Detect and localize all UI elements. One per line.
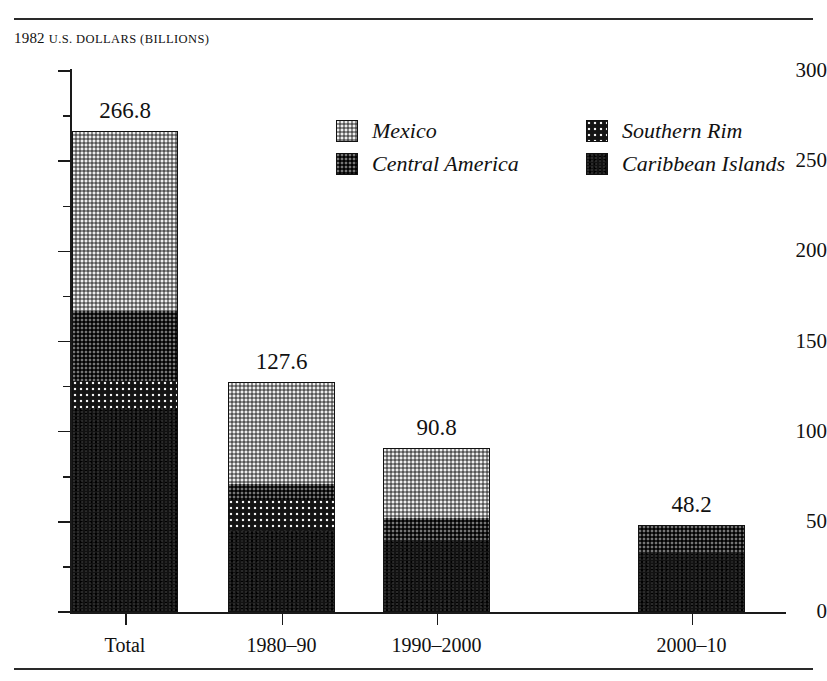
y-tick-major xyxy=(58,160,71,162)
x-tick xyxy=(125,613,127,625)
bar-segment-central-america xyxy=(638,525,745,552)
bar-segment-central-america xyxy=(72,311,178,381)
y-tick-label: 300 xyxy=(775,60,827,81)
bar-segment-caribbean-islands xyxy=(72,408,178,612)
x-tick-label: 1990–2000 xyxy=(347,635,527,655)
y-tick-label: 100 xyxy=(775,421,827,442)
bar-segment-southern-rim xyxy=(72,381,178,408)
y-tick-major xyxy=(58,431,71,433)
y-tick-minor xyxy=(63,386,71,388)
y-tick-minor xyxy=(63,115,71,117)
x-tick xyxy=(692,613,694,625)
legend-item-mexico: Mexico xyxy=(336,120,437,142)
legend-label: Central America xyxy=(372,153,519,175)
y-tick-minor xyxy=(63,206,71,208)
y-tick-label: 50 xyxy=(775,511,827,532)
bar-segment-central-america xyxy=(228,484,335,500)
bar-value-label: 127.6 xyxy=(228,350,335,373)
x-tick-label: Total xyxy=(35,635,215,655)
bar-segment-caribbean-islands xyxy=(383,540,490,612)
y-tick-label: 200 xyxy=(775,240,827,261)
legend-swatch-icon xyxy=(336,153,358,175)
bar-total xyxy=(72,131,178,612)
bar-segment-mexico xyxy=(383,448,490,518)
legend-swatch-icon xyxy=(586,120,608,142)
x-tick-label: 2000–10 xyxy=(602,635,782,655)
bar-value-label: 266.8 xyxy=(72,99,178,122)
y-tick-label: 0 xyxy=(775,601,827,622)
bar-segment-caribbean-islands xyxy=(638,552,745,612)
chart-plot-area: 050100150200250300 266.8127.690.848.2 To… xyxy=(0,0,827,681)
bar-segment-mexico xyxy=(72,131,178,311)
bar-segment-caribbean-islands xyxy=(228,531,335,612)
legend-item-central-america: Central America xyxy=(336,153,519,175)
legend-label: Mexico xyxy=(372,120,437,142)
legend-swatch-icon xyxy=(586,153,608,175)
y-tick-label: 150 xyxy=(775,331,827,352)
x-axis-line xyxy=(70,612,786,614)
legend-label: Southern Rim xyxy=(622,120,742,142)
y-tick-major xyxy=(58,521,71,523)
y-tick-major xyxy=(58,70,71,72)
legend-item-southern-rim: Southern Rim xyxy=(586,120,742,142)
legend-item-caribbean-islands: Caribbean Islands xyxy=(586,153,785,175)
legend-swatch-icon xyxy=(336,120,358,142)
bar-1990-2000 xyxy=(383,448,490,612)
bar-segment-mexico xyxy=(228,382,335,484)
y-tick-minor xyxy=(63,296,71,298)
y-tick-major xyxy=(58,611,71,613)
bar-value-label: 48.2 xyxy=(638,493,745,516)
legend-label: Caribbean Islands xyxy=(622,153,785,175)
x-tick xyxy=(282,613,284,625)
x-tick-label: 1980–90 xyxy=(192,635,372,655)
x-tick xyxy=(437,613,439,625)
bar-1980-90 xyxy=(228,382,335,612)
y-tick-major xyxy=(58,251,71,253)
y-tick-minor xyxy=(63,566,71,568)
bar-value-label: 90.8 xyxy=(383,416,490,439)
y-tick-minor xyxy=(63,476,71,478)
bar-segment-southern-rim xyxy=(228,500,335,531)
y-tick-major xyxy=(58,341,71,343)
bar-2000-10 xyxy=(638,525,745,612)
bar-segment-central-america xyxy=(383,518,490,540)
